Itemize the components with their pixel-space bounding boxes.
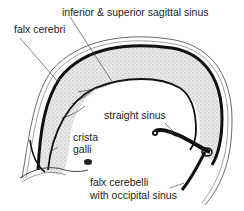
label-falx-cerebri: falx cerebri <box>14 23 65 35</box>
label-sagittal-sinus: inferior & superior sagittal sinus <box>62 6 208 18</box>
label-crista: crista <box>73 131 98 143</box>
label-galli: galli <box>73 143 92 155</box>
falx-cerebelli <box>182 152 205 190</box>
label-occipital-sinus: with occipital sinus <box>89 189 177 201</box>
falx-cerebri-diagram: inferior & superior sagittal sinus falx … <box>0 0 244 211</box>
label-straight-sinus: straight sinus <box>104 109 166 121</box>
label-falx-cerebelli: falx cerebelli <box>90 176 148 188</box>
leader-falx-cerebelli <box>170 183 184 188</box>
leader-falx-cerebri <box>20 38 58 82</box>
